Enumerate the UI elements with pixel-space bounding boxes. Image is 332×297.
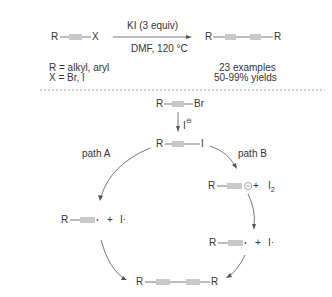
path-a-coupling-arrow bbox=[101, 240, 127, 280]
path-b-label: path B bbox=[238, 148, 267, 160]
iodoalkyne-i-label: I bbox=[201, 138, 204, 150]
reactant-alkyne-bonds bbox=[60, 35, 91, 39]
step1-arrow bbox=[176, 112, 180, 132]
iodoalkyne-r-label: R bbox=[156, 138, 163, 150]
final-diyne-bonds bbox=[145, 280, 210, 284]
start-br-label: Br bbox=[194, 98, 204, 110]
path-b-anion-bonds bbox=[217, 183, 252, 190]
reactant-x-label: X bbox=[92, 31, 99, 43]
path-a-iodine-radical: I· bbox=[120, 214, 126, 226]
iodine-molecule: I2 bbox=[268, 180, 275, 196]
path-b-arrow bbox=[210, 146, 237, 169]
product-r-right: R bbox=[274, 31, 281, 43]
iodoalkyne-bonds bbox=[165, 142, 200, 146]
path-b-anion-plus: + bbox=[253, 180, 259, 192]
path-a-label: path A bbox=[82, 148, 110, 160]
path-a-alkynyl-bonds bbox=[70, 218, 98, 222]
product-r-left: R bbox=[205, 31, 212, 43]
path-a-plus: + bbox=[107, 214, 113, 226]
iodide-reagent: I⊖ bbox=[183, 115, 192, 132]
path-a-r-label: R bbox=[61, 214, 68, 226]
conditions-label: DMF, 120 °C bbox=[131, 43, 188, 55]
yields-range: 50-99% yields bbox=[214, 72, 277, 84]
path-b-radical-plus: + bbox=[255, 237, 261, 249]
negative-charge-icon: ⊖ bbox=[186, 117, 192, 124]
product-diyne-bonds bbox=[213, 35, 273, 39]
path-b-down-arrow bbox=[248, 194, 256, 230]
final-r-left: R bbox=[136, 276, 143, 288]
path-b-anion-r-label: R bbox=[208, 180, 215, 192]
path-b-radical-r-label: R bbox=[209, 237, 216, 249]
start-r-label: R bbox=[156, 98, 163, 110]
path-b-coupling-arrow bbox=[226, 255, 245, 278]
substituent-x: X = Br, I bbox=[49, 72, 85, 84]
path-b-alkynyl-bonds bbox=[218, 241, 246, 245]
path-b-iodine-radical: I· bbox=[268, 237, 274, 249]
final-r-right: R bbox=[211, 276, 218, 288]
reagent-label: KI (3 equiv) bbox=[127, 20, 178, 32]
reactant-r-label: R bbox=[51, 31, 58, 43]
reaction-arrow bbox=[113, 35, 192, 39]
start-alkyne-bonds bbox=[164, 102, 193, 106]
